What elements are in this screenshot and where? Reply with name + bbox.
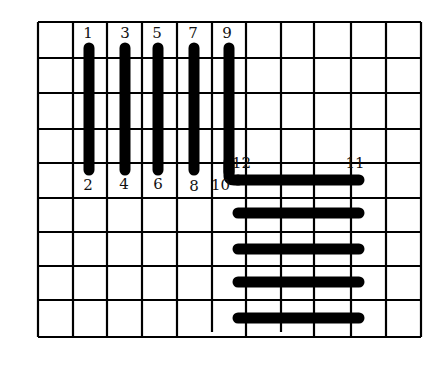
point-label: 8 [189,177,199,195]
point-label: 4 [119,175,129,193]
point-label: 11 [345,154,364,172]
point-label: 12 [232,154,251,172]
point-label: 7 [188,24,198,42]
diagram-canvas: 135792468101211 [0,0,436,365]
point-label: 2 [83,176,93,194]
point-label: 1 [83,24,93,42]
point-label: 10 [211,176,230,194]
point-label: 9 [222,24,232,42]
point-label: 5 [152,24,162,42]
point-label: 6 [153,175,163,193]
stitch-grid-diagram: 135792468101211 [0,0,436,365]
point-label: 3 [120,24,130,42]
